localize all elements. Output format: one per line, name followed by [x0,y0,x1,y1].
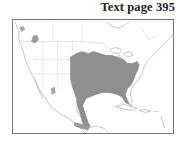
range-area-west-2 [19,26,25,32]
range-map [12,19,174,134]
range-map-svg [13,20,173,133]
range-area-west-1 [31,35,39,44]
range-area-west-3 [51,87,56,95]
range-area-main [70,51,139,106]
page-label: Text page 395 [101,0,175,14]
